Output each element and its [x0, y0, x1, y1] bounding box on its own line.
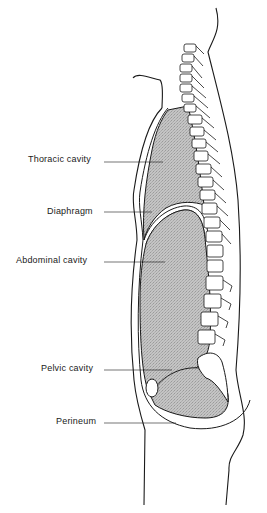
front-outline-upper	[133, 75, 163, 108]
label-pelvic-cavity: Pelvic cavity	[41, 363, 93, 373]
label-diaphragm: Diaphragm	[47, 206, 93, 216]
pubic-bone	[146, 379, 158, 397]
label-perineum: Perineum	[56, 416, 96, 426]
label-thoracic-cavity: Thoracic cavity	[28, 154, 91, 164]
label-abdominal-cavity: Abdominal cavity	[16, 255, 87, 265]
